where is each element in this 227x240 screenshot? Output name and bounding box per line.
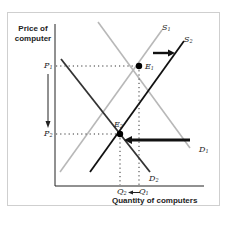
y-axis-label: Price of computer	[12, 24, 54, 44]
x-axis-label: Quantity of computers	[112, 196, 197, 205]
supply-curve-s1	[60, 30, 162, 172]
equilibrium-e1	[136, 63, 142, 69]
equilibrium-e2	[117, 131, 123, 137]
label-q1: Q1	[139, 188, 149, 197]
price-fall-arrowhead-icon	[46, 121, 51, 128]
label-p1: P1	[44, 62, 53, 71]
quantity-fall-arrowhead-icon	[128, 191, 133, 195]
label-s2: S2	[184, 36, 193, 45]
label-e1: E1	[145, 63, 154, 72]
demand-curve-d1	[98, 22, 190, 148]
label-e2: E2	[114, 121, 123, 130]
label-p2: P2	[44, 130, 53, 139]
label-d2: D2	[149, 175, 159, 184]
label-s1: S1	[162, 24, 171, 33]
label-d1: D1	[199, 146, 209, 155]
supply-curve-s2	[90, 41, 184, 172]
label-q2: Q2	[117, 188, 127, 197]
